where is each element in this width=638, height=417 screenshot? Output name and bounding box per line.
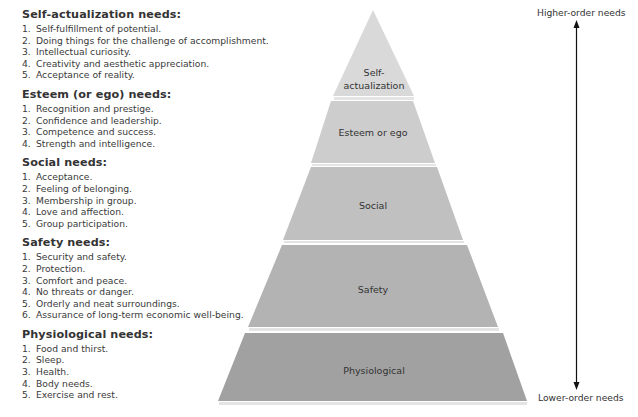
tier-social: Social [283, 167, 463, 240]
higher-order-label: Higher-order needs [537, 7, 626, 18]
order-arrow [574, 20, 580, 390]
tier-label: Esteem or ego [338, 127, 407, 138]
pyramid-diagram: Self- actualization Esteem or ego Social… [0, 0, 638, 417]
tier-label: Self- [364, 67, 385, 78]
arrow-up-icon [574, 20, 580, 28]
arrow-down-icon [574, 382, 580, 390]
tier-safety: Safety [248, 245, 498, 327]
tier-label: Safety [358, 284, 389, 295]
tier-label: actualization [344, 80, 405, 91]
tier-self-actualization: Self- actualization [333, 10, 414, 96]
tier-label: Physiological [343, 365, 405, 376]
lower-order-label: Lower-order needs [538, 392, 624, 403]
tier-physiological: Physiological [218, 333, 527, 401]
tier-esteem: Esteem or ego [311, 101, 435, 163]
tier-label: Social [359, 200, 387, 211]
